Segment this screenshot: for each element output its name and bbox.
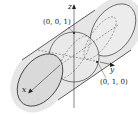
z-axis-label: z <box>68 3 72 11</box>
point-0-0-1 <box>73 32 75 34</box>
y-axis-label: y <box>110 66 114 74</box>
z-axis-arrow-icon <box>72 4 76 9</box>
point-0-1-0 <box>96 61 98 63</box>
point-label-0-0-1: (0, 0, 1) <box>43 19 71 26</box>
x-axis-label: x <box>22 86 26 94</box>
point-label-0-1-0: (0, 1, 0) <box>100 79 128 86</box>
